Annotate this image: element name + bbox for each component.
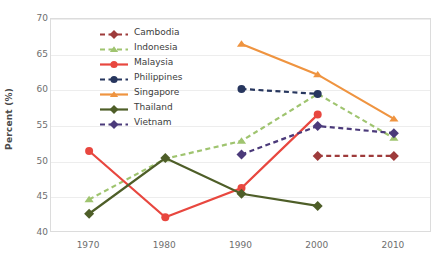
series-singapore — [237, 40, 399, 121]
legend: CambodiaIndonesiaMalaysiaPhilippinesSing… — [99, 26, 183, 129]
x-tick-label: 2010 — [381, 240, 404, 250]
data-point-marker — [314, 90, 322, 98]
legend-item-singapore[interactable]: Singapore — [99, 86, 183, 99]
x-tick-label: 1990 — [229, 240, 252, 250]
legend-item-thailand[interactable]: Thailand — [99, 101, 183, 114]
legend-label: Vietnam — [134, 116, 172, 129]
data-point-marker — [237, 137, 246, 143]
data-point-marker — [110, 61, 117, 68]
series-thailand — [84, 153, 323, 219]
x-tick-label: 1980 — [153, 240, 176, 250]
legend-label: Malaysia — [134, 56, 173, 69]
legend-key-singapore-icon — [99, 86, 129, 99]
x-tick-label: 2000 — [305, 240, 328, 250]
legend-item-vietnam[interactable]: Vietnam — [99, 116, 183, 129]
legend-key-philippines-icon — [99, 71, 129, 84]
data-point-marker — [110, 105, 119, 114]
legend-label: Philippines — [134, 71, 183, 84]
x-tick-label: 1970 — [77, 240, 100, 250]
data-point-marker — [110, 76, 117, 83]
legend-label: Cambodia — [134, 26, 180, 39]
y-tick-label: 55 — [18, 120, 48, 130]
y-tick-label: 60 — [18, 84, 48, 94]
data-point-marker — [389, 128, 399, 138]
series-line — [89, 158, 318, 214]
legend-key-malaysia-icon — [99, 56, 129, 69]
data-point-marker — [237, 150, 247, 160]
legend-label: Indonesia — [134, 41, 178, 54]
legend-item-philippines[interactable]: Philippines — [99, 71, 183, 84]
legend-label: Singapore — [134, 86, 179, 99]
series-line — [242, 89, 318, 94]
legend-key-cambodia-icon — [99, 26, 129, 39]
data-point-marker — [389, 151, 399, 161]
legend-key-indonesia-icon — [99, 41, 129, 54]
legend-item-malaysia[interactable]: Malaysia — [99, 56, 183, 69]
y-tick-label: 40 — [18, 227, 48, 237]
y-tick-label: 65 — [18, 49, 48, 59]
data-point-marker — [238, 85, 246, 93]
series-philippines — [238, 85, 322, 98]
data-point-marker — [110, 30, 119, 39]
data-point-marker — [313, 121, 323, 131]
y-axis-tick-labels: 40455055606570 — [16, 0, 48, 276]
data-point-marker — [237, 40, 246, 46]
line-chart: Percent (%) 40455055606570 1970198019902… — [0, 0, 446, 276]
legend-key-vietnam-icon — [99, 116, 129, 129]
legend-key-thailand-icon — [99, 101, 129, 114]
data-point-marker — [161, 213, 169, 221]
series-line — [242, 44, 394, 119]
legend-item-indonesia[interactable]: Indonesia — [99, 41, 183, 54]
legend-item-cambodia[interactable]: Cambodia — [99, 26, 183, 39]
y-tick-label: 50 — [18, 156, 48, 166]
y-tick-label: 45 — [18, 191, 48, 201]
x-axis-tick-labels: 19701980199020002010 — [0, 240, 446, 256]
y-tick-label: 70 — [18, 13, 48, 23]
data-point-marker — [110, 120, 119, 129]
legend-label: Thailand — [134, 101, 173, 114]
data-point-marker — [314, 111, 322, 119]
data-point-marker — [313, 151, 323, 161]
data-point-marker — [313, 201, 323, 211]
series-cambodia — [313, 151, 399, 161]
data-point-marker — [85, 147, 93, 155]
